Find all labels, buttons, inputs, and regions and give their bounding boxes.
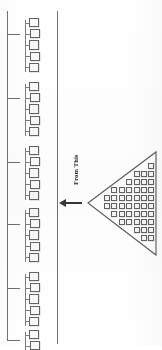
triangle-cell bbox=[134, 171, 140, 177]
triangle-cell bbox=[148, 195, 154, 201]
group-stub bbox=[25, 346, 30, 347]
group-stub bbox=[25, 151, 29, 152]
strip-cell bbox=[29, 168, 39, 177]
triangle-cell bbox=[134, 195, 140, 201]
strip-cell bbox=[30, 29, 40, 38]
group-stub bbox=[25, 257, 29, 258]
triangle-cell bbox=[126, 203, 132, 209]
triangle-cell bbox=[134, 179, 140, 185]
triangle-cell bbox=[141, 219, 147, 225]
strip-cell bbox=[30, 341, 40, 350]
strip-cell bbox=[29, 208, 39, 217]
triangle-cell bbox=[148, 171, 154, 177]
linear-array-strip bbox=[0, 0, 64, 346]
strip-cell bbox=[29, 191, 39, 200]
triangle-cell bbox=[141, 211, 147, 217]
group-stub bbox=[25, 87, 29, 88]
group-spine bbox=[25, 20, 26, 72]
strip-cell bbox=[30, 93, 40, 102]
group-stub bbox=[25, 321, 29, 322]
triangle-cell bbox=[126, 187, 132, 193]
group-spine bbox=[25, 274, 26, 326]
group-stub bbox=[25, 184, 30, 185]
group-stub bbox=[25, 131, 29, 132]
group-stub bbox=[25, 277, 29, 278]
group-stub bbox=[25, 34, 30, 35]
strip-right-rail bbox=[57, 11, 58, 344]
strip-cell bbox=[29, 317, 39, 326]
triangle-cell bbox=[111, 211, 117, 217]
triangle-cell bbox=[148, 211, 154, 217]
triangle-cell bbox=[126, 211, 132, 217]
strip-cell bbox=[29, 330, 39, 339]
group-stub bbox=[25, 67, 29, 68]
triangle-cell bbox=[126, 195, 132, 201]
triangular-array bbox=[86, 148, 162, 258]
triangle-cell bbox=[148, 203, 154, 209]
triangle-cell bbox=[119, 187, 125, 193]
triangle-cell bbox=[119, 203, 125, 209]
strip-cell bbox=[30, 283, 40, 292]
triangle-cell bbox=[141, 227, 147, 233]
strip-tick bbox=[8, 98, 20, 99]
strip-cell bbox=[30, 116, 40, 125]
group-stub bbox=[25, 335, 29, 336]
strip-cell bbox=[29, 272, 39, 281]
strip-cell bbox=[29, 294, 39, 303]
triangle-cell bbox=[141, 203, 147, 209]
group-stub bbox=[25, 246, 30, 247]
group-stub bbox=[25, 56, 30, 57]
triangle-cell bbox=[111, 195, 117, 201]
strip-cell bbox=[29, 230, 39, 239]
group-spine bbox=[25, 84, 26, 136]
strip-cell bbox=[29, 18, 39, 27]
arrow-shaft bbox=[65, 202, 82, 204]
triangle-cell bbox=[141, 179, 147, 185]
group-stub bbox=[25, 109, 29, 110]
strip-cell bbox=[29, 40, 39, 49]
triangle-cell bbox=[148, 227, 154, 233]
group-stub bbox=[25, 195, 29, 196]
strip-cell bbox=[30, 180, 40, 189]
triangle-cell bbox=[134, 203, 140, 209]
group-stub bbox=[25, 120, 30, 121]
triangle-cell bbox=[126, 219, 132, 225]
triangle-cell bbox=[126, 179, 132, 185]
strip-cell bbox=[29, 82, 39, 91]
group-spine bbox=[25, 148, 26, 200]
triangle-cell bbox=[134, 219, 140, 225]
group-stub bbox=[25, 235, 29, 236]
group-stub bbox=[25, 310, 30, 311]
group-stub bbox=[25, 173, 29, 174]
triangle-cell bbox=[141, 187, 147, 193]
triangle-cell bbox=[148, 219, 154, 225]
triangle-cell bbox=[111, 187, 117, 193]
group-stub bbox=[25, 162, 30, 163]
triangle-cell bbox=[141, 235, 147, 241]
strip-cell bbox=[29, 146, 39, 155]
strip-tick bbox=[8, 162, 20, 163]
triangle-cell bbox=[104, 195, 110, 201]
strip-cell bbox=[30, 219, 40, 228]
strip-tick bbox=[8, 288, 20, 289]
strip-tick bbox=[8, 224, 20, 225]
group-stub bbox=[25, 224, 30, 225]
group-stub bbox=[25, 45, 29, 46]
strip-left-rail bbox=[7, 11, 8, 341]
caption-from-this: From This bbox=[72, 154, 79, 185]
triangle-cell bbox=[141, 195, 147, 201]
group-stub bbox=[25, 288, 30, 289]
triangle-cell bbox=[148, 179, 154, 185]
strip-cell bbox=[30, 242, 40, 251]
group-spine bbox=[25, 210, 26, 262]
strip-cell bbox=[29, 104, 39, 113]
triangle-cell bbox=[134, 227, 140, 233]
triangle-cell bbox=[148, 187, 154, 193]
strip-cell bbox=[29, 253, 39, 262]
triangle-cell bbox=[148, 163, 154, 169]
strip-tick bbox=[8, 340, 20, 341]
strip-cell bbox=[30, 306, 40, 315]
triangle-cell bbox=[111, 203, 117, 209]
strip-cell bbox=[29, 127, 39, 136]
